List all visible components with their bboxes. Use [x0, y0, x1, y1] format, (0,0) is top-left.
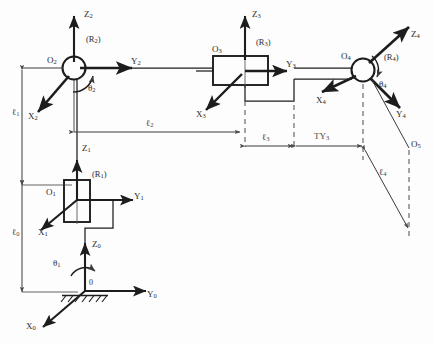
theta1-label: θ1: [53, 259, 61, 269]
axis-label-z2: Z2: [84, 10, 93, 20]
axis-label-y4: Y4: [396, 110, 406, 120]
theta2-label: θ2: [88, 84, 96, 94]
frame-label-r2: (R2): [86, 35, 101, 45]
frame-label-r4: (R4): [384, 53, 399, 63]
axis-label-z3: Z3: [252, 10, 261, 20]
axis-label-y1: Y1: [134, 192, 144, 202]
frame-label-r1: (R1): [92, 170, 107, 180]
axis-label-x3: X3: [196, 110, 206, 120]
revolute-joint-r2: [22, 57, 93, 93]
dimension-label-l4: ℓ4: [379, 168, 387, 178]
axis-label-y3: Y3: [286, 60, 296, 70]
axis-label-x4: X4: [316, 96, 326, 106]
kinematic-diagram-figure: Z2 (R2) O2 Y2 X2 θ2 Z1 (R1) O1 Y1 X1 Z0 …: [0, 0, 434, 343]
origin-label-o5: O5: [411, 140, 421, 150]
origin-label-o4: O4: [341, 52, 351, 62]
origin-label-o1: O1: [46, 188, 56, 198]
link-joint2-to-joint3: [85, 68, 214, 71]
origin-label-0: 0: [89, 279, 93, 287]
axis-label-z1: Z1: [82, 144, 91, 154]
dimension-l0: [22, 185, 78, 292]
dimension-label-l1: ℓ1: [12, 108, 20, 118]
dashed-projection-lines: [245, 84, 409, 238]
origin-label-o2: O2: [47, 56, 57, 66]
axis-label-x2: X2: [28, 112, 38, 122]
dimension-label-l0: ℓ0: [12, 228, 20, 238]
frame-r0-axes: [43, 243, 146, 327]
frame-label-r3: (R3): [256, 38, 271, 48]
ground-support: [61, 296, 108, 303]
frame-r3-axes: [206, 16, 287, 110]
dimension-label-ty3: TY3: [314, 132, 329, 142]
axis-label-z0: Z0: [92, 240, 101, 250]
dimension-label-l3: ℓ3: [262, 133, 270, 143]
axis-label-z4: Z4: [411, 30, 420, 40]
dimension-l4: [365, 150, 408, 228]
axis-label-x1: X1: [38, 228, 48, 238]
axis-label-y2: Y2: [131, 57, 141, 67]
axis-label-y0: Y0: [147, 290, 157, 300]
dimension-label-l2: ℓ2: [146, 119, 154, 129]
theta4-label: θ4: [379, 80, 387, 90]
axis-label-x0: X0: [26, 322, 36, 332]
origin-label-o3: O3: [212, 45, 222, 55]
